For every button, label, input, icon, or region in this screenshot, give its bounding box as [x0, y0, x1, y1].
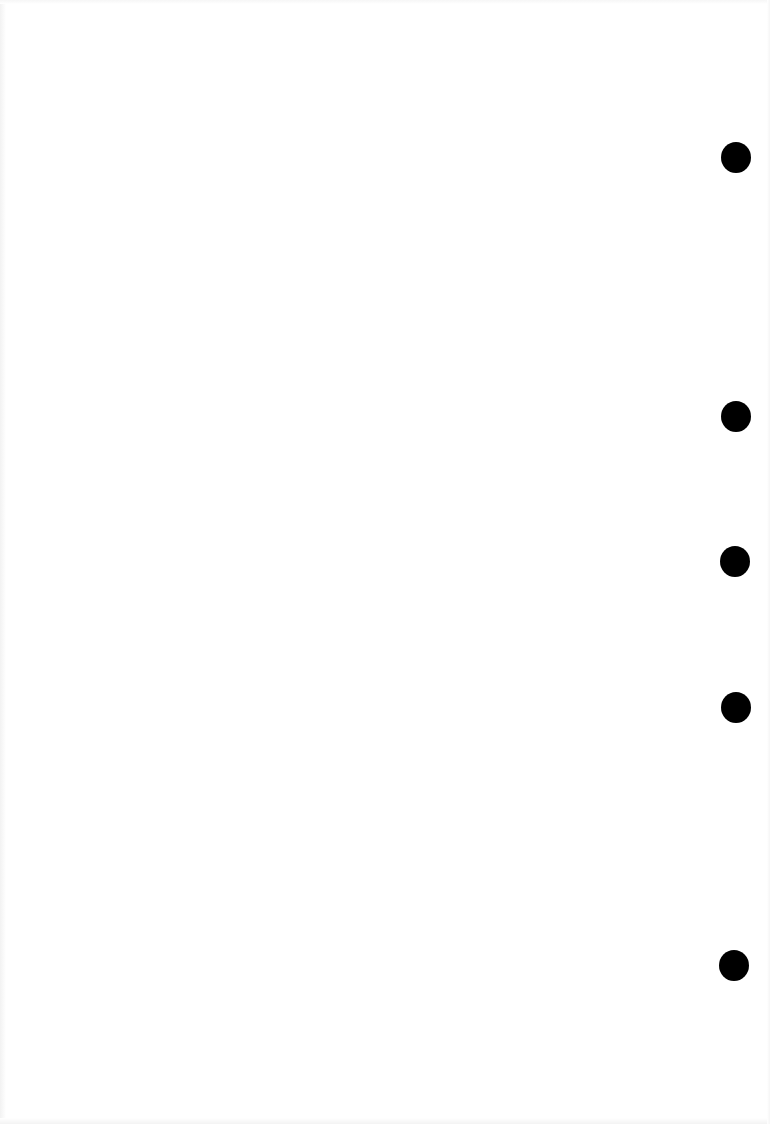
punch-hole-icon — [720, 546, 750, 577]
punch-hole-icon — [721, 401, 751, 432]
blank-page — [0, 0, 770, 1124]
punch-hole-icon — [721, 142, 751, 173]
punch-hole-icon — [719, 950, 749, 981]
page-edge-left — [0, 0, 6, 1124]
punch-hole-icon — [721, 692, 751, 723]
page-edge-bottom — [0, 1118, 770, 1124]
page-edge-top — [0, 0, 770, 4]
